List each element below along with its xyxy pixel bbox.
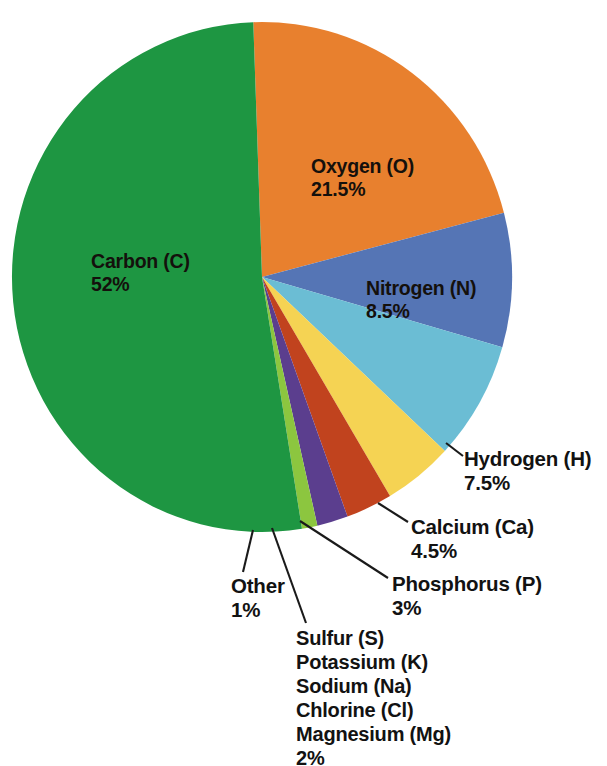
slice-label-minor-potassium: Potassium (K) (296, 650, 451, 674)
slice-label-minor-chlorine: Chlorine (Cl) (296, 698, 451, 722)
slice-label-hydrogen: Hydrogen (H) 7.5% (464, 447, 591, 495)
leader-line-phosphorus (300, 521, 388, 578)
slice-label-minor-elements: Sulfur (S) Potassium (K) Sodium (Na) Chl… (296, 626, 451, 766)
pie-chart: Carbon (C) 52% Oxygen (O) 21.5% Nitrogen… (0, 0, 607, 766)
slice-label-nitrogen: Nitrogen (N) 8.5% (366, 277, 476, 323)
leader-line-hydrogen (446, 443, 463, 456)
slice-label-calcium-value: 4.5% (411, 539, 534, 563)
slice-label-phosphorus-name: Phosphorus (P) (392, 572, 542, 595)
slice-label-oxygen: Oxygen (O) 21.5% (311, 155, 414, 201)
slice-label-minor-sulfur: Sulfur (S) (296, 626, 451, 650)
slice-label-carbon: Carbon (C) 52% (91, 250, 190, 296)
leader-line-other (243, 530, 253, 572)
slice-label-minor-magnesium: Magnesium (Mg) (296, 722, 451, 746)
slice-label-carbon-value: 52% (91, 273, 190, 296)
slice-label-minor-value: 2% (296, 746, 451, 766)
slice-label-calcium: Calcium (Ca) 4.5% (411, 515, 534, 563)
slice-label-other: Other 1% (231, 574, 285, 622)
slice-label-hydrogen-name: Hydrogen (H) (464, 447, 591, 470)
slice-label-phosphorus: Phosphorus (P) 3% (392, 572, 542, 620)
slice-label-minor-sodium: Sodium (Na) (296, 674, 451, 698)
slice-label-nitrogen-name: Nitrogen (N) (366, 277, 476, 299)
slice-label-calcium-name: Calcium (Ca) (411, 515, 534, 538)
slice-label-carbon-name: Carbon (C) (91, 250, 190, 272)
slice-label-other-name: Other (231, 574, 285, 597)
slice-label-nitrogen-value: 8.5% (366, 300, 476, 323)
slice-label-other-value: 1% (231, 598, 285, 622)
slice-label-hydrogen-value: 7.5% (464, 471, 591, 495)
slice-label-oxygen-value: 21.5% (311, 178, 414, 201)
slice-label-oxygen-name: Oxygen (O) (311, 155, 414, 177)
slice-label-phosphorus-value: 3% (392, 596, 542, 620)
leader-line-calcium (378, 503, 408, 522)
